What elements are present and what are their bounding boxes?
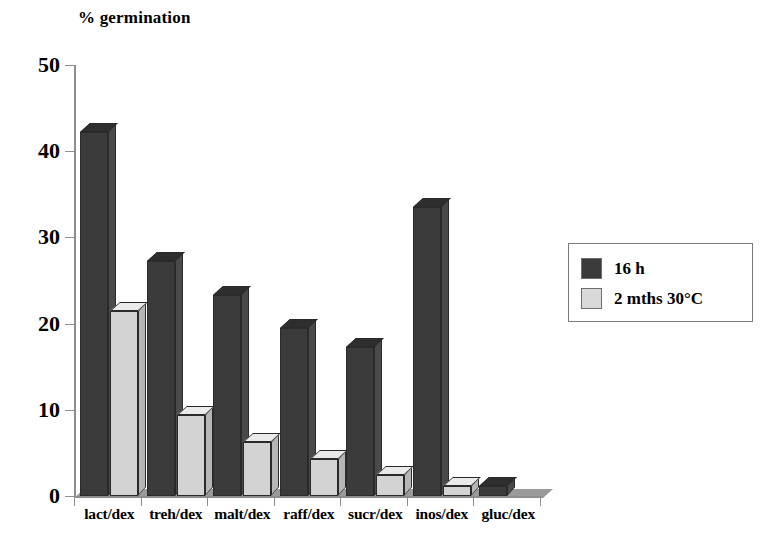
legend-label: 2 mths 30°C — [614, 289, 703, 309]
bar-lact-dex-16h — [80, 132, 108, 496]
y-axis-tick — [65, 65, 75, 66]
legend-swatch-icon — [581, 258, 602, 279]
bar-sucr-dex-16h — [346, 347, 374, 496]
bar-side-face — [441, 198, 449, 496]
bar-front-face — [147, 261, 175, 496]
y-axis-tick — [65, 237, 75, 238]
y-axis-tick — [65, 151, 75, 152]
bar-side-face — [205, 406, 213, 496]
x-axis-label-gluc-dex: gluc/dex — [466, 505, 551, 523]
y-axis-tick-label: 30 — [38, 226, 60, 248]
bar-treh-dex-16h — [147, 261, 175, 496]
bar-inos-dex-2mths — [443, 486, 471, 496]
bar-malt-dex-2mths — [243, 442, 271, 496]
y-axis-tick-label: 10 — [38, 399, 60, 421]
y-axis-tick — [65, 324, 75, 325]
bar-front-face — [479, 486, 507, 496]
legend-swatch-icon — [581, 288, 602, 309]
bar-front-face — [280, 328, 308, 496]
bar-front-face — [243, 442, 271, 496]
y-axis-line — [74, 65, 76, 498]
bar-front-face — [376, 475, 404, 496]
bar-sucr-dex-2mths — [376, 475, 404, 496]
y-axis-tick-label: 50 — [38, 54, 60, 76]
bar-front-face — [346, 347, 374, 496]
bar-gluc-dex-16h — [479, 486, 507, 496]
bar-treh-dex-2mths — [177, 415, 205, 496]
bar-raff-dex-16h — [280, 328, 308, 496]
bar-front-face — [413, 207, 441, 496]
chart-legend: 16 h 2 mths 30°C — [568, 243, 753, 322]
legend-label: 16 h — [614, 259, 645, 279]
legend-item-16h: 16 h — [581, 258, 740, 279]
legend-item-2mths: 2 mths 30°C — [581, 288, 740, 309]
bar-front-face — [80, 132, 108, 496]
bar-front-face — [213, 295, 241, 496]
bar-front-face — [310, 459, 338, 496]
bar-lact-dex-2mths — [110, 311, 138, 496]
bar-side-face — [271, 433, 279, 496]
bar-inos-dex-16h — [413, 207, 441, 496]
bar-malt-dex-16h — [213, 295, 241, 496]
bar-raff-dex-2mths — [310, 459, 338, 496]
y-axis-tick-label: 20 — [38, 313, 60, 335]
bar-side-face — [138, 302, 146, 496]
y-axis-tick-label: 0 — [49, 485, 60, 507]
y-axis-tick-label: 40 — [38, 140, 60, 162]
bar-front-face — [177, 415, 205, 496]
bar-front-face — [110, 311, 138, 496]
bar-front-face — [443, 486, 471, 496]
y-axis-tick — [65, 410, 75, 411]
germination-bar-chart: % germination 01020304050 lact/dextreh/d… — [0, 0, 773, 554]
